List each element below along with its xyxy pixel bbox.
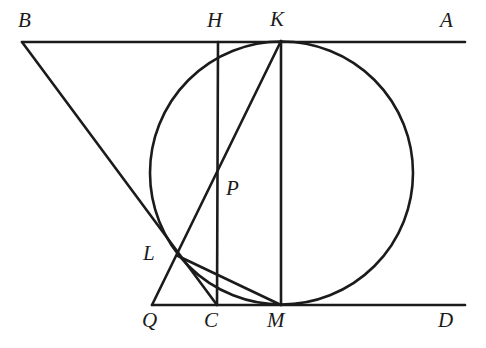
geometry-figure: BHKAPLQCMD [0, 0, 486, 348]
geometry-canvas [0, 0, 486, 348]
point-label-l: L [143, 243, 155, 264]
point-label-k: K [270, 9, 284, 30]
point-label-b: B [18, 10, 31, 31]
segment-LM [178, 256, 281, 305]
point-label-q: Q [142, 310, 157, 331]
point-label-p: P [226, 178, 239, 199]
segment-HC [217, 42, 218, 305]
point-label-m: M [267, 310, 285, 331]
point-label-a: A [440, 10, 453, 31]
point-label-d: D [438, 310, 453, 331]
point-label-h: H [207, 10, 222, 31]
point-label-c: C [204, 310, 218, 331]
